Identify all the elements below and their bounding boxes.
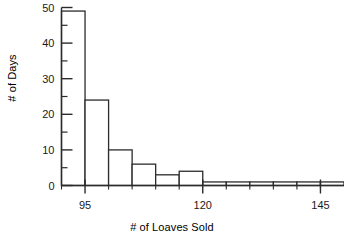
y-tick-label: 0 bbox=[48, 180, 54, 192]
histogram-bar bbox=[62, 11, 86, 185]
x-tick-label: 120 bbox=[194, 199, 212, 211]
y-tick-label: 20 bbox=[42, 108, 54, 120]
y-tick-label: 30 bbox=[42, 73, 54, 85]
x-tick-labels: 95120145 bbox=[79, 199, 330, 211]
y-tick-label: 10 bbox=[42, 144, 54, 156]
histogram-bar bbox=[132, 164, 156, 185]
x-tick-label: 95 bbox=[79, 199, 91, 211]
plot-area: 01020304050 95120145 bbox=[0, 0, 344, 247]
y-tick-label: 40 bbox=[42, 37, 54, 49]
histogram-bar bbox=[109, 150, 133, 186]
histogram-bar bbox=[85, 100, 109, 185]
bars-group bbox=[62, 11, 344, 185]
histogram-bar bbox=[179, 171, 203, 185]
histogram-chart: # of Days # of Loaves Sold 01020304050 9… bbox=[0, 0, 344, 247]
y-tick-labels: 01020304050 bbox=[42, 2, 54, 192]
y-tick-label: 50 bbox=[42, 2, 54, 14]
x-tick-label: 145 bbox=[311, 199, 329, 211]
histogram-bar bbox=[156, 175, 180, 186]
